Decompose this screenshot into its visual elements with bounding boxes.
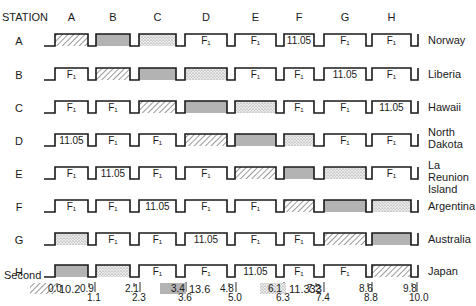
country-label: Australia xyxy=(428,233,471,245)
slot-value: F₁ xyxy=(96,234,130,246)
slot-value: 11.05 xyxy=(235,266,276,278)
slot-value: F₁ xyxy=(55,102,88,114)
row-label-a: A xyxy=(12,35,26,47)
tick-label: 8.8 xyxy=(364,292,378,303)
slot-value: 11.05 xyxy=(185,234,227,246)
column-header-d: D xyxy=(196,11,216,23)
tick-label: 5.0 xyxy=(228,292,242,303)
slot-value: 11.05 xyxy=(139,201,176,213)
slot-value: F₁ xyxy=(185,201,227,213)
slot-value: F₁ xyxy=(96,135,130,147)
slot-value: F₁ xyxy=(139,168,176,180)
column-header-f: F xyxy=(289,11,309,23)
slot-value: F₁ xyxy=(55,168,88,180)
slot-value: F₁ xyxy=(324,102,366,114)
slot-value: F₁ xyxy=(185,35,227,47)
column-header-b: B xyxy=(103,11,123,23)
slot-value: 11.05 xyxy=(55,135,88,147)
slot-value: F₁ xyxy=(284,69,314,81)
tick-label: 1.1 xyxy=(87,292,101,303)
country-label: Japan xyxy=(428,265,458,277)
slot-value: F₁ xyxy=(55,201,88,213)
column-header-h: H xyxy=(382,11,402,23)
slot-value: F₁ xyxy=(324,35,366,47)
slot-value: F₁ xyxy=(139,234,176,246)
row-label-g: G xyxy=(12,234,26,246)
slot-value: F₁ xyxy=(139,135,176,147)
slot-value: F₁ xyxy=(185,168,227,180)
tick-label: 10.0 xyxy=(409,292,428,303)
legend-label-hatch: 10.2 xyxy=(59,283,80,295)
slot-value: F₁ xyxy=(372,69,411,81)
column-header-c: C xyxy=(148,11,168,23)
row-label-c: C xyxy=(12,102,26,114)
slot-value: F₁ xyxy=(372,35,411,47)
slot-value: F₁ xyxy=(324,266,366,278)
tick-label: 2.3 xyxy=(132,292,146,303)
slot-value: F₁ xyxy=(235,35,276,47)
slot-value: 11.05 xyxy=(284,35,314,47)
country-label: La ReunionIsland xyxy=(428,159,476,195)
slot-value: F₁ xyxy=(284,234,314,246)
row-label-b: B xyxy=(12,69,26,81)
slot-value: F₁ xyxy=(235,234,276,246)
column-header-e: E xyxy=(246,11,266,23)
legend-label-gray: 13.6 xyxy=(189,283,210,295)
country-label: Argentina xyxy=(428,200,475,212)
slot-value: 11.05 xyxy=(96,168,130,180)
slot-value: F₁ xyxy=(139,266,176,278)
time-axis-label: Second xyxy=(4,269,41,281)
slot-value: F₁ xyxy=(96,201,130,213)
slot-value: F₁ xyxy=(284,266,314,278)
slot-value: F₁ xyxy=(372,135,411,147)
slot-value: F₁ xyxy=(96,102,130,114)
column-header-a: A xyxy=(62,11,82,23)
slot-value: F₁ xyxy=(185,266,227,278)
slot-value: F₁ xyxy=(324,135,366,147)
country-label: Norway xyxy=(428,34,465,46)
slot-value: 11.05 xyxy=(324,69,366,81)
slot-value: F₁ xyxy=(235,201,276,213)
station-header: STATION xyxy=(2,11,48,23)
station-timing-diagram: STATION ABCDEFGH ABCDEFGH F₁F₁11.05F₁F₁F… xyxy=(0,0,476,306)
row-label-d: D xyxy=(12,135,26,147)
slot-value: F₁ xyxy=(235,69,276,81)
country-label: Liberia xyxy=(428,68,461,80)
legend-label-dots: 11.333 xyxy=(289,283,322,295)
country-label: Hawaii xyxy=(428,101,461,113)
row-label-f: F xyxy=(12,201,26,213)
row-label-e: E xyxy=(12,168,26,180)
tick-label: 6.3 xyxy=(276,292,290,303)
slot-value: F₁ xyxy=(284,102,314,114)
column-header-g: G xyxy=(335,11,355,23)
slot-value: F₁ xyxy=(55,69,88,81)
country-label: NorthDakota xyxy=(428,126,463,150)
slot-value: F₁ xyxy=(372,168,411,180)
slot-value: 11.05 xyxy=(372,102,411,114)
